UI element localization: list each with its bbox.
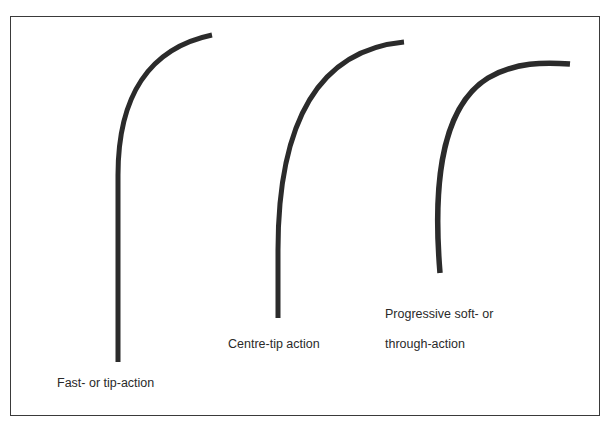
centre-tip-action-curve xyxy=(278,42,404,318)
centre-tip-action-label: Centre-tip action xyxy=(228,337,320,352)
progressive-action-label-line2: through-action xyxy=(385,337,465,351)
fast-action-label: Fast- or tip-action xyxy=(57,376,154,391)
progressive-action-curve xyxy=(438,63,570,273)
progressive-action-label: Progressive soft- or through-action xyxy=(385,292,493,352)
fast-action-curve xyxy=(118,35,212,362)
rod-curves-diagram xyxy=(0,0,614,436)
progressive-action-label-line1: Progressive soft- or xyxy=(385,307,493,321)
